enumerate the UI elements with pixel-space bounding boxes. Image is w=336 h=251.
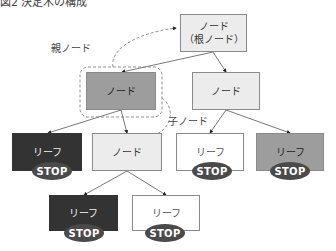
stop-badge: STOP [270, 162, 310, 180]
leaf-label: リーフ [69, 207, 98, 220]
node-label: ノード [112, 146, 142, 159]
leaf-label: リーフ [33, 146, 62, 159]
root-node-label: ノード [199, 20, 229, 33]
root-node-sublabel: （根ノード） [184, 33, 244, 46]
leaf-label: リーフ [196, 146, 225, 159]
node-right: ノード [192, 72, 260, 110]
child-node-label: 子ノード [168, 113, 208, 128]
stop-badge: STOP [145, 224, 185, 242]
leaf-label: リーフ [276, 146, 305, 159]
node-left: ノード [86, 72, 156, 110]
stop-badge: STOP [192, 162, 232, 180]
node-label: ノード [211, 85, 241, 98]
parent-node-label: 親ノード [51, 40, 91, 55]
leaf-label: リーフ [152, 207, 181, 220]
node-label: ノード [106, 85, 136, 98]
root-node: ノード （根ノード） [180, 14, 247, 52]
stop-badge: STOP [32, 162, 72, 180]
node-l3-2: ノード [92, 133, 162, 171]
stop-badge: STOP [64, 224, 104, 242]
